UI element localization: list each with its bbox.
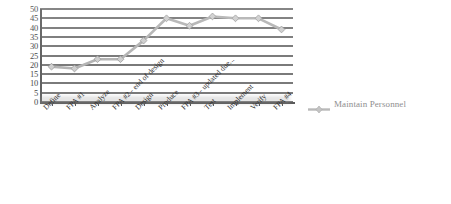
data-point-marker — [71, 65, 78, 72]
legend-entry-label: Maintain Personnel — [334, 99, 406, 109]
x-axis-tick-mark — [98, 102, 99, 106]
x-axis-tick-mark — [52, 102, 53, 106]
y-axis-tick-labels: 50454035302520151050 — [12, 9, 38, 102]
x-axis-tick-mark — [259, 102, 260, 106]
x-axis-tick-mark — [190, 102, 191, 106]
x-axis-tick-labels: DefineFPA #1AnalyzeFPA #2 - end of desig… — [0, 104, 451, 184]
y-axis-tick-label: 10 — [16, 79, 38, 88]
series-line — [52, 16, 282, 68]
x-axis-tick-mark — [144, 102, 145, 106]
data-point-marker — [209, 13, 216, 20]
y-axis-tick-label: 20 — [16, 61, 38, 70]
data-point-marker — [186, 22, 193, 29]
data-point-marker — [94, 56, 101, 63]
x-axis-tick-mark — [167, 102, 168, 106]
chart-legend: Maintain Personnel — [308, 99, 406, 109]
data-point-marker — [48, 63, 55, 70]
y-axis-tick-label: 50 — [16, 5, 38, 14]
data-point-marker — [232, 15, 239, 22]
y-axis-tick-label: 45 — [16, 14, 38, 23]
y-axis-tick-label: 35 — [16, 33, 38, 42]
x-axis-tick-mark — [75, 102, 76, 106]
x-axis-tick-mark — [213, 102, 214, 106]
x-axis-tick-mark — [236, 102, 237, 106]
x-axis-tick-mark — [282, 102, 283, 106]
y-axis-tick-label: 25 — [16, 52, 38, 61]
x-axis-tick-mark — [121, 102, 122, 106]
line-chart-figure: 50454035302520151050 DefineFPA #1Analyze… — [0, 0, 451, 204]
y-axis-tick-label: 15 — [16, 70, 38, 79]
y-axis-tick-label: 30 — [16, 42, 38, 51]
y-axis-tick-label: 5 — [16, 89, 38, 98]
legend-marker-icon — [308, 100, 330, 109]
y-axis-tick-label: 40 — [16, 24, 38, 33]
